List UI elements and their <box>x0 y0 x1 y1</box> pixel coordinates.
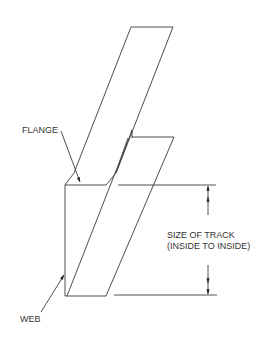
extension-lines <box>114 185 217 295</box>
dimension-label-line1: SIZE OF TRACK <box>167 230 235 240</box>
flange-leader <box>61 131 80 182</box>
track-diagram: FLANGE WEB SIZE OF TRACK (INSIDE TO INSI… <box>0 0 271 340</box>
web-label: WEB <box>20 314 41 324</box>
flange-label: FLANGE <box>22 125 58 135</box>
dimension-label-line2: (INSIDE TO INSIDE) <box>167 241 250 251</box>
lower-flange <box>106 130 174 296</box>
web-leader <box>41 275 64 312</box>
